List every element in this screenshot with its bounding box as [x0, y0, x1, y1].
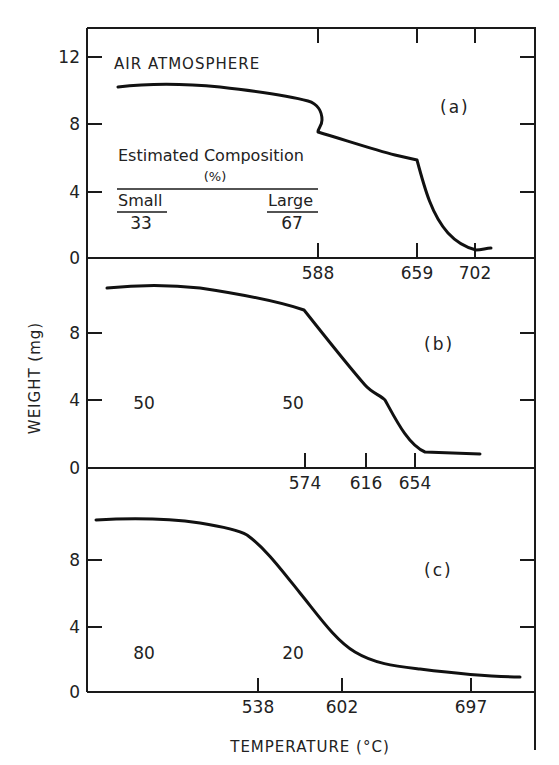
composition-large-a: 67	[281, 213, 303, 233]
tga-figure: 12 8 4 0 8 4 0 8 4 0 588 659 702 574 616…	[0, 0, 559, 765]
panel-c-tag: (c)	[424, 560, 453, 580]
composition-unit: (%)	[204, 169, 227, 184]
x-mark-b-2: 616	[350, 473, 382, 493]
panel-b-tag: (b)	[424, 334, 454, 354]
panel-a-tag: (a)	[440, 97, 470, 117]
composition-label-large: Large	[268, 191, 313, 210]
composition-large-c: 20	[282, 643, 304, 663]
x-mark-b-1: 574	[289, 473, 321, 493]
x-mark-a-3: 702	[459, 263, 491, 283]
y-tick-c-0: 0	[69, 682, 80, 702]
composition-small-a: 33	[130, 213, 152, 233]
y-tick-b-0: 0	[69, 458, 80, 478]
x-mark-c-2: 602	[326, 697, 358, 717]
y-tick-c-4: 4	[69, 617, 80, 637]
y-tick-a-12: 12	[58, 47, 80, 67]
composition-large-b: 50	[282, 393, 304, 413]
composition-small-b: 50	[133, 393, 155, 413]
y-tick-a-8: 8	[69, 114, 80, 134]
curve-c	[96, 519, 520, 677]
y-axis-title: WEIGHT (mg)	[26, 322, 44, 434]
y-tick-c-8: 8	[69, 550, 80, 570]
x-axis-title: TEMPERATURE (°C)	[229, 738, 390, 756]
panel-a-frame	[87, 28, 535, 750]
curve-b	[107, 285, 480, 454]
y-tick-labels: 12 8 4 0 8 4 0 8 4 0	[58, 47, 80, 702]
x-mark-c-3: 697	[455, 697, 487, 717]
x-mark-b-3: 654	[399, 473, 431, 493]
y-tick-b-8: 8	[69, 323, 80, 343]
air-atmosphere-label: AIR ATMOSPHERE	[114, 55, 260, 73]
composition-small-c: 80	[133, 643, 155, 663]
y-tick-b-4: 4	[69, 390, 80, 410]
composition-label-small: Small	[118, 191, 162, 210]
x-mark-c-1: 538	[242, 697, 274, 717]
curve-a	[118, 84, 491, 250]
y-tick-a-4: 4	[69, 182, 80, 202]
x-mark-a-1: 588	[302, 263, 334, 283]
x-tick-labels: 588 659 702 574 616 654 538 602 697	[242, 263, 491, 717]
composition-header: Estimated Composition	[118, 146, 304, 165]
x-mark-a-2: 659	[401, 263, 433, 283]
y-tick-a-0: 0	[69, 248, 80, 268]
panel-c-ticks	[87, 560, 535, 692]
